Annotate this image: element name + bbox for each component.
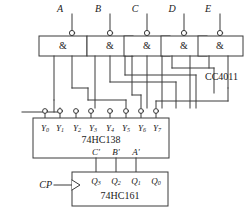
pin-y5: Y5 — [122, 124, 130, 133]
bubble-gate-a — [69, 30, 74, 35]
term-y3 — [89, 109, 94, 114]
pin-y7: Y7 — [153, 124, 161, 133]
input-label-c: C — [132, 4, 139, 14]
pin-q3: Q3 — [91, 177, 101, 186]
pin-y2: Y2 — [73, 124, 81, 133]
bubble-gate-c — [144, 30, 149, 35]
pin-y1: Y1 — [56, 124, 64, 133]
input-label-e: E — [205, 4, 211, 14]
schematic-canvas: A B C D E & & & & & CC4011 Y0 Y1 Y2 Y3 Y… — [0, 0, 249, 219]
term-y7 — [154, 109, 159, 114]
pin-q2: Q2 — [111, 177, 121, 186]
bubble-gate-e — [217, 30, 222, 35]
term-y0 — [43, 109, 48, 114]
pin-a-prime: A' — [132, 148, 139, 157]
schematic-wiring — [0, 0, 249, 219]
input-label-a: A — [57, 4, 63, 14]
term-y1 — [58, 109, 63, 114]
pin-c-prime: C' — [92, 148, 100, 157]
gate-symbol-c: & — [143, 41, 151, 51]
term-y2 — [74, 109, 79, 114]
pin-y6: Y6 — [138, 124, 146, 133]
gate-symbol-a: & — [59, 41, 67, 51]
term-y4 — [108, 109, 113, 114]
chip-label-74hc161: 74HC161 — [101, 191, 140, 201]
pin-y4: Y4 — [106, 124, 114, 133]
gate-symbol-b: & — [106, 41, 114, 51]
pin-b-prime: B' — [112, 148, 119, 157]
bubble-gate-b — [107, 30, 112, 35]
input-label-b: B — [95, 4, 101, 14]
pin-y3: Y3 — [89, 124, 97, 133]
term-y6 — [139, 109, 144, 114]
clock-label-cp: CP — [39, 180, 52, 190]
pin-y0: Y0 — [41, 124, 49, 133]
bubble-gate-d — [181, 30, 186, 35]
input-label-d: D — [168, 4, 175, 14]
pin-q0: Q0 — [151, 177, 161, 186]
gate-symbol-e: & — [216, 41, 224, 51]
chip-family-label-cc4011: CC4011 — [205, 72, 238, 82]
term-y5 — [124, 109, 129, 114]
gate-symbol-d: & — [180, 41, 188, 51]
chip-label-74hc138: 74HC138 — [82, 135, 121, 145]
pin-q1: Q1 — [131, 177, 141, 186]
